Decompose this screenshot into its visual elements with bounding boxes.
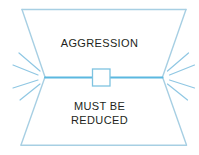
left-starburst [13,53,40,100]
left-ray-3 [13,80,38,88]
diagram-canvas: AGGRESSION MUST BE REDUCED [0,0,199,155]
lower-trapezoid [21,77,187,145]
square-node-icon[interactable] [93,69,111,86]
lower-right-side [163,77,187,145]
upper-right-side [163,10,187,78]
right-ray-3 [170,80,195,88]
upper-trapezoid [22,10,186,78]
hourglass-diagram-graphic [0,0,199,155]
upper-left-side [22,10,45,78]
right-starburst [168,53,195,100]
lower-left-side [21,77,45,145]
